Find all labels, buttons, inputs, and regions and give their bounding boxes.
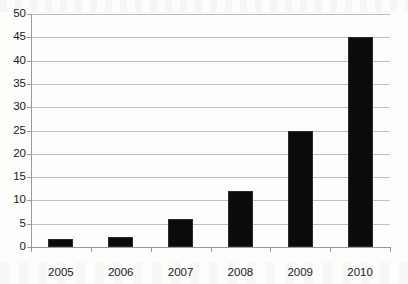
x-axis-tick [211,247,212,252]
gridline [31,154,390,155]
gridline [31,131,390,132]
bar [48,239,73,247]
x-axis-tick [330,247,331,252]
x-axis-tick [390,247,391,252]
y-axis-tick-label: 35 [2,78,26,90]
gridline [31,14,390,15]
gridline [31,200,390,201]
y-axis-line [31,14,32,248]
y-axis-tick-label: 10 [2,194,26,206]
bar [348,37,373,247]
y-axis-tick [27,200,31,201]
y-axis-tick [27,61,31,62]
x-axis-tick-label: 2009 [270,267,330,279]
bar [108,237,133,247]
scan-artifact-top [0,0,408,12]
y-axis-tick [27,14,31,15]
gridline [31,61,390,62]
y-axis-tick-label: 15 [2,171,26,183]
y-axis-tick-label: 20 [2,148,26,160]
x-axis-tick-label: 2008 [211,267,271,279]
plot-area: 200520062007200820092010 [31,14,390,247]
bar [288,131,313,248]
gridline [31,177,390,178]
gridline [31,84,390,85]
y-axis-tick-label: 30 [2,101,26,113]
x-axis-tick-label: 2007 [151,267,211,279]
y-axis-tick [27,37,31,38]
bar [168,219,193,247]
x-axis-tick [91,247,92,252]
y-axis-tick [27,154,31,155]
x-axis-tick [270,247,271,252]
y-axis-tick-label: 25 [2,125,26,137]
x-axis-tick-label: 2006 [91,267,151,279]
bar [228,191,253,247]
y-axis-tick [27,177,31,178]
bar-chart: 50454035302520151050 2005200620072008200… [0,0,408,284]
y-axis-tick [27,84,31,85]
gridline [31,224,390,225]
y-axis-tick-label: 0 [2,241,26,253]
x-axis-tick-label: 2010 [330,267,390,279]
y-axis-tick-label: 50 [2,8,26,20]
x-axis-tick [31,247,32,252]
x-axis-tick-label: 2005 [31,267,91,279]
y-axis-tick [27,131,31,132]
y-axis-tick [27,107,31,108]
y-axis-tick-label: 45 [2,31,26,43]
y-axis-tick-label: 5 [2,218,26,230]
y-axis-labels: 50454035302520151050 [0,14,26,247]
y-axis-tick [27,224,31,225]
y-axis-tick-label: 40 [2,55,26,67]
gridline [31,107,390,108]
x-axis-tick [151,247,152,252]
gridline [31,37,390,38]
